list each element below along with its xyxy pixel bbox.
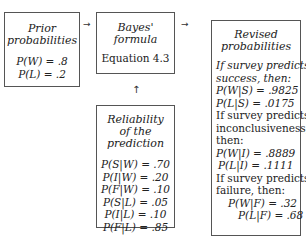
inconclusive-header: then: [216,134,300,147]
success-header: success, then: [216,72,300,85]
right-arrow-icon: → [181,20,189,29]
bayes-title-line-2: formula [97,34,174,46]
reliability-value: P(I|L) = .10 [97,208,174,221]
reliability-value: P(S|W) = .70 [97,158,174,171]
reliability-box: Reliability of the prediction P(S|W) = .… [96,105,175,228]
reliability-title-line-3: prediction [97,138,174,150]
reliability-value: P(S|L) = .05 [97,196,174,209]
prior-value-l: P(L) = .2 [5,68,79,81]
inconclusive-value: P(L|I) = .1111 [216,159,300,172]
inconclusive-header: inconclusiveness, [216,122,300,135]
reliability-value: P(I|W) = .20 [97,171,174,184]
failure-value: P(L|F) = .68 [216,209,300,222]
reliability-value: P(F|L) = .85 [97,221,174,234]
prior-probabilities-box: Prior probabilities P(W) = .8 P(L) = .2 [4,12,80,87]
success-header: If survey predicts [216,59,300,72]
revised-title-line-2: probabilities [212,41,300,53]
bayes-formula-box: Bayes' formula Equation 4.3 [96,12,175,74]
reliability-value: P(F|W) = .10 [97,183,174,196]
success-value: P(W|S) = .9825 [216,84,300,97]
failure-value: P(W|F) = .32 [216,197,300,210]
failure-header: If survey predicts [216,172,300,185]
prior-title-line-2: probabilities [5,35,79,47]
bayes-equation-ref: Equation 4.3 [97,52,174,65]
up-arrow-icon: ↑ [132,85,140,94]
failure-header: failure, then: [216,184,300,197]
inconclusive-value: P(W|I) = .8889 [216,147,300,160]
success-value: P(L|S) = .0175 [216,97,300,110]
right-arrow-icon: → [83,20,91,29]
inconclusive-header: If survey predicts [216,109,300,122]
revised-probabilities-box: Revised probabilities If survey predicts… [211,20,301,236]
prior-value-w: P(W) = .8 [5,55,79,68]
